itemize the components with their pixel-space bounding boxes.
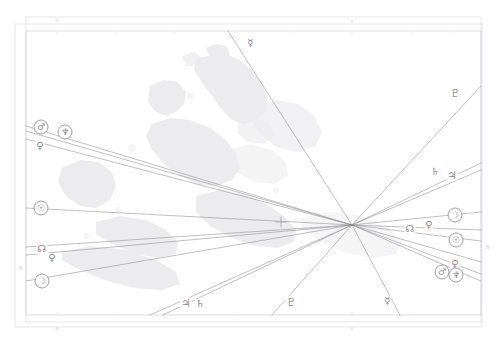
venus-line-left-2 [26, 225, 352, 255]
saturn-line-right [352, 163, 481, 225]
landmass-layer [58, 44, 402, 290]
pluto-line-right [352, 86, 481, 225]
jupiter-line-right [352, 170, 481, 225]
map-vector-layer [0, 0, 497, 339]
moon-line-right [352, 212, 481, 225]
astro-map-canvas: ♂♆♀☉☊♀☽☿♇♄♃☽☊♀☉♀♂♆♃♄♇☿ 1001005050 [0, 0, 497, 339]
sun-line-left [26, 208, 352, 225]
node-line-left [26, 225, 352, 247]
